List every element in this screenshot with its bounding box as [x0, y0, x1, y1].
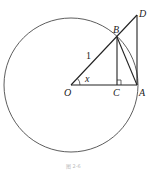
right-angle-mark — [117, 80, 121, 85]
label-D: D — [138, 8, 147, 19]
label-O: O — [64, 87, 71, 98]
label-A: A — [138, 87, 146, 98]
angle-arc — [78, 79, 81, 86]
label-B: B — [113, 24, 119, 35]
label-radius: 1 — [86, 50, 91, 61]
figure-caption: 图 2-6 — [66, 163, 81, 170]
segment-OD — [71, 15, 137, 85]
unit-circle-diagram: O A B C D 1 x 图 2-6 — [0, 0, 149, 171]
label-angle-x: x — [84, 73, 90, 84]
segment-BA — [117, 37, 137, 85]
label-C: C — [113, 87, 120, 98]
